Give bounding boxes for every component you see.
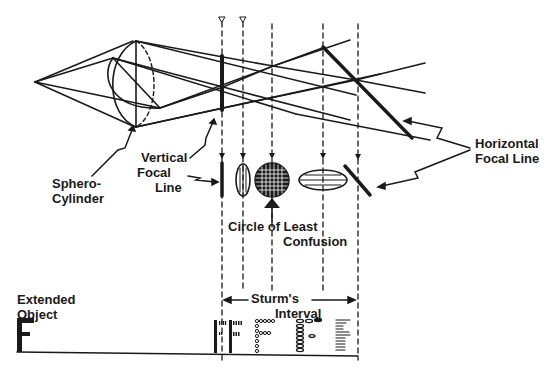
circle-of-least-confusion-label: Circle of Least Confusion: [228, 219, 347, 249]
sturms-interval-label: Sturm's Interval: [251, 291, 321, 321]
horizontal-focal-line: [323, 47, 412, 138]
incident-rays: [35, 41, 160, 127]
sphero-cylinder-lens: [108, 41, 160, 127]
sphero-cylinder-label: Sphero- Cylinder: [52, 176, 104, 206]
extended-object-label: Extended Object: [17, 292, 76, 322]
image-F-vertical-line: [214, 320, 242, 353]
image-F-horizontal-line: [336, 320, 350, 350]
horizontal-focal-line-label: Horizontal Focal Line: [475, 136, 539, 166]
sturm-conoid-diagram: Sphero- Cylinder Vertical Focal Line Hor…: [0, 0, 560, 376]
vertical-focal-line-label: Vertical Focal Line: [137, 150, 209, 195]
image-F-horizontal-blur: [297, 318, 322, 351]
marker-triangles: [219, 17, 246, 22]
section-circle-least-confusion: [255, 163, 289, 197]
down-arrows: [219, 153, 361, 160]
extended-object-letter-F: [17, 318, 34, 352]
cross-sections: [222, 163, 370, 197]
section-vertical-ellipse: [236, 164, 250, 196]
image-F-least-confusion-dots: [255, 319, 274, 352]
optical-axis-baseline: [17, 352, 358, 356]
